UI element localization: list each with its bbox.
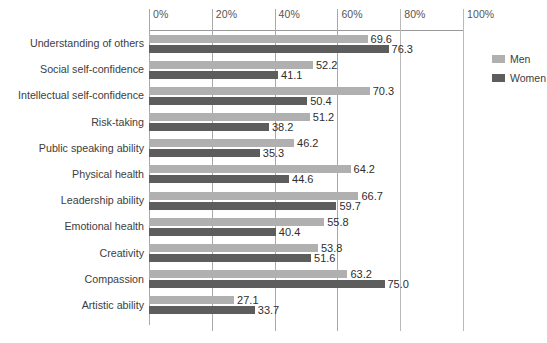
bar-value-label: 76.3: [392, 43, 413, 54]
bar-men: 66.7: [149, 192, 358, 200]
bar-value-label: 75.0: [388, 279, 409, 290]
bar-women: 35.3: [149, 149, 260, 157]
category-label: Physical health: [72, 168, 144, 181]
x-tick-label: 80%: [400, 8, 425, 20]
bar-value-label: 35.3: [263, 148, 284, 159]
legend: MenWomen: [492, 51, 547, 89]
category-label: Public speaking ability: [39, 142, 144, 155]
legend-swatch-icon: [492, 55, 505, 63]
bar-group: Intellectual self-confidence70.350.4: [149, 83, 463, 109]
bar-women: 51.6: [149, 254, 311, 262]
bar-fill: [149, 192, 358, 200]
bar-women: 44.6: [149, 175, 289, 183]
bar-value-label: 63.2: [350, 269, 371, 280]
bar-fill: [149, 306, 255, 314]
bar-group: Risk-taking51.238.2: [149, 110, 463, 136]
bar-group: Understanding of others69.676.3: [149, 31, 463, 57]
category-label: Artistic ability: [82, 299, 144, 312]
x-tick-label: 40%: [275, 8, 300, 20]
legend-label: Men: [510, 53, 530, 65]
bar-fill: [149, 270, 347, 278]
legend-item: Men: [492, 51, 547, 66]
x-axis-tick-labels: 0%20%40%60%80%100%: [149, 8, 463, 30]
bar-group: Artistic ability27.133.7: [149, 293, 463, 319]
bar-value-label: 41.1: [281, 69, 302, 80]
bar-men: 64.2: [149, 165, 351, 173]
bar-value-label: 52.2: [316, 59, 337, 70]
category-label: Risk-taking: [91, 116, 144, 129]
plot-area: Understanding of others69.676.3Social se…: [149, 31, 463, 323]
bar-men: 70.3: [149, 87, 370, 95]
bar-value-label: 33.7: [258, 305, 279, 316]
legend-label: Women: [510, 72, 546, 84]
bar-value-label: 38.2: [272, 122, 293, 133]
horizontal-bar-chart: 0%20%40%60%80%100% Understanding of othe…: [0, 0, 547, 343]
bar-fill: [149, 149, 260, 157]
bar-men: 27.1: [149, 296, 234, 304]
bar-fill: [149, 296, 234, 304]
bar-value-label: 40.4: [279, 226, 300, 237]
bar-group: Creativity53.851.6: [149, 241, 463, 267]
bar-value-label: 55.8: [327, 216, 348, 227]
bar-value-label: 66.7: [361, 190, 382, 201]
bar-women: 33.7: [149, 306, 255, 314]
bar-value-label: 70.3: [373, 85, 394, 96]
bar-women: 38.2: [149, 123, 269, 131]
bar-group: Social self-confidence52.241.1: [149, 57, 463, 83]
bar-fill: [149, 165, 351, 173]
bar-women: 50.4: [149, 97, 307, 105]
bar-value-label: 64.2: [354, 164, 375, 175]
legend-swatch-icon: [492, 74, 505, 82]
bar-group: Emotional health55.840.4: [149, 214, 463, 240]
category-label: Creativity: [99, 247, 144, 260]
bar-women: 75.0: [149, 280, 385, 288]
bar-fill: [149, 97, 307, 105]
category-label: Compassion: [85, 273, 144, 286]
bar-fill: [149, 71, 278, 79]
bar-fill: [149, 87, 370, 95]
bar-fill: [149, 280, 385, 288]
bar-women: 40.4: [149, 228, 276, 236]
category-label: Social self-confidence: [40, 63, 144, 76]
bar-value-label: 44.6: [292, 174, 313, 185]
bar-fill: [149, 244, 318, 252]
bar-group: Physical health64.244.6: [149, 162, 463, 188]
bar-fill: [149, 175, 289, 183]
bar-fill: [149, 35, 368, 43]
category-label: Emotional health: [64, 220, 144, 233]
bar-men: 53.8: [149, 244, 318, 252]
gridline: [463, 9, 464, 331]
category-label: Intellectual self-confidence: [18, 89, 144, 102]
bar-value-label: 50.4: [310, 95, 331, 106]
x-tick-label: 0%: [149, 8, 168, 20]
bar-group: Leadership ability66.759.7: [149, 188, 463, 214]
bar-fill: [149, 228, 276, 236]
bar-value-label: 46.2: [297, 138, 318, 149]
bar-men: 63.2: [149, 270, 347, 278]
bar-fill: [149, 254, 311, 262]
bar-fill: [149, 45, 389, 53]
legend-item: Women: [492, 70, 547, 85]
bar-men: 69.6: [149, 35, 368, 43]
bar-fill: [149, 123, 269, 131]
bar-value-label: 69.6: [371, 33, 392, 44]
category-label: Leadership ability: [61, 194, 144, 207]
x-tick-label: 100%: [463, 8, 494, 20]
bar-group: Public speaking ability46.235.3: [149, 136, 463, 162]
x-tick-label: 60%: [337, 8, 362, 20]
bar-group: Compassion63.275.0: [149, 267, 463, 293]
bar-women: 76.3: [149, 45, 389, 53]
bar-value-label: 51.2: [313, 112, 334, 123]
bar-fill: [149, 202, 336, 210]
x-tick-label: 20%: [212, 8, 237, 20]
category-label: Understanding of others: [30, 37, 144, 50]
bar-value-label: 59.7: [339, 200, 360, 211]
bar-women: 41.1: [149, 71, 278, 79]
bar-women: 59.7: [149, 202, 336, 210]
bar-value-label: 51.6: [314, 253, 335, 264]
bar-value-label: 27.1: [237, 295, 258, 306]
